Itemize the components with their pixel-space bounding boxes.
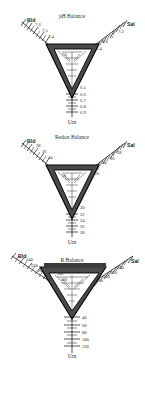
inner-tick-label: 20 [62, 173, 66, 178]
right-axis-ticks [96, 20, 127, 48]
right-axis-label: Sal [127, 142, 135, 148]
ternary-chart-redox: Redox Balance Bld 28 26 24 [0, 127, 145, 254]
inner-tick-label: 160 [57, 271, 63, 276]
chart-title: pH Balance [59, 13, 86, 19]
right-axis-label: Sal [127, 21, 135, 27]
left-tick-label: 28 [36, 143, 41, 148]
chart-title: Redox Balance [55, 134, 90, 140]
bottom-tick-label: 24 [80, 218, 85, 223]
bottom-tick-label: 22 [80, 212, 85, 217]
right-tick-label: 200 [103, 274, 111, 279]
bottom-tick-label: 26 [80, 224, 85, 229]
bottom-tick-label: 6.8 [80, 104, 86, 109]
left-tick-label: 24 [48, 155, 53, 160]
inner-tick-label: 160 [61, 277, 67, 282]
bottom-tick-label: 40 [82, 315, 87, 320]
right-tick-label: 240 [117, 265, 125, 270]
top-band [44, 263, 106, 268]
left-tick-label: 240 [26, 257, 34, 262]
bottom-axis-label: Urn [68, 239, 77, 245]
bottom-tick-label: 6.7 [80, 98, 86, 103]
ternary-chart-ph: pH Balance Bld 7.6 7.5 7.4 [0, 0, 145, 127]
right-tick-label: 28 [117, 150, 122, 155]
bottom-tick-label: 20 [80, 205, 85, 210]
bottom-tick-label: 80 [82, 330, 87, 335]
right-tick-label: 6.8 [102, 39, 108, 44]
right-tick-label: 26 [110, 156, 115, 161]
left-tick-label: 26 [42, 149, 47, 154]
bottom-axis-label: Urn [68, 353, 77, 359]
right-tick-label: 220 [110, 270, 118, 275]
right-tick-label: 24 [102, 160, 107, 165]
bottom-tick-label: 6.6 [80, 92, 86, 97]
bottom-tick-label: 28 [80, 230, 85, 235]
left-tick-label: 7.4 [48, 34, 54, 39]
inner-tick-label: 7.2 [62, 52, 67, 57]
right-tick-label: 7 [111, 35, 114, 40]
figure-page: pH Balance Bld 7.6 7.5 7.4 [0, 0, 145, 395]
right-axis-ticks [96, 141, 127, 169]
right-tick-label: 7.2 [118, 29, 124, 34]
chart-title: R Balance [60, 257, 84, 263]
bottom-tick-label: 120 [82, 344, 90, 349]
left-tick-label: 7.6 [35, 22, 41, 27]
ternary-chart-r: R Balance Bld 240 220 200 180 160 [0, 253, 145, 380]
bottom-tick-label: 60 [82, 323, 87, 328]
left-axis-label: Bld [27, 138, 35, 144]
bottom-tick-label: 100 [82, 337, 90, 342]
left-tick-label: 7.5 [42, 28, 48, 33]
bottom-tick-label: 6.5 [80, 85, 86, 90]
inner-tick-label: 20 [95, 171, 99, 176]
right-axis-label: Sal [131, 258, 139, 264]
bottom-tick-label: 6.9 [80, 110, 86, 115]
bottom-axis-label: Urn [68, 119, 77, 125]
inner-tick-label: 7 [95, 42, 97, 47]
